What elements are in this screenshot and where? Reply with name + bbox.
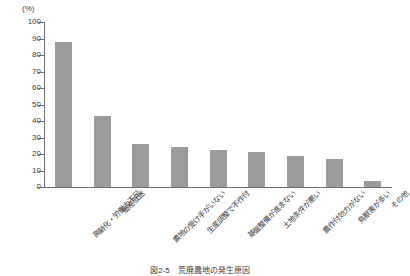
bar [210,150,227,187]
bar [132,144,149,187]
bar [94,116,111,187]
bar [287,156,304,187]
y-axis-unit-label: (%) [22,4,34,13]
bar [171,147,188,187]
bar [364,181,381,187]
figure-caption: 図2-5 荒廃農地の発生原因 [0,264,400,276]
bar-series [44,22,392,187]
bar [326,159,343,187]
x-axis-category-labels: 高齢化・労働力不足価格低迷農地の受け手がいない生産調整で不作付基盤整備が進まない… [44,189,392,259]
x-axis-label: その他 [389,189,410,210]
y-tick-mark [38,187,44,188]
bar [55,42,72,187]
x-axis-label: 農作付効力がない [322,189,368,235]
x-axis-line [44,187,392,188]
bar [248,152,265,187]
